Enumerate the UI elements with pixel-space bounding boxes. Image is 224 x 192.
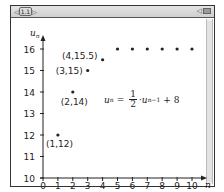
x-tick-label: 3 (85, 181, 91, 191)
x-tick-label: 7 (144, 181, 150, 191)
x-tick-label: 5 (115, 181, 121, 191)
x-tick-label: 2 (70, 181, 76, 191)
point-label: (3,15) (56, 66, 83, 76)
y-tick-label: 16 (24, 45, 36, 55)
data-point (71, 90, 74, 93)
data-point (101, 58, 104, 61)
y-axis-arrow-icon (41, 35, 46, 41)
y-tick-label: 13 (24, 109, 35, 119)
x-tick-label: 6 (130, 181, 136, 191)
x-axis-label: n (205, 180, 211, 190)
point-label: (4,15.5) (62, 51, 98, 61)
data-point (161, 47, 164, 50)
formula-lhs-sub: n (110, 96, 114, 103)
formula-equals: = (117, 95, 125, 105)
x-tick-label: 8 (159, 181, 165, 191)
data-point (176, 47, 179, 50)
data-point (190, 47, 193, 50)
y-tick-label: 15 (24, 66, 35, 76)
data-point (56, 133, 59, 136)
y-tick-label: 14 (24, 88, 36, 98)
x-tick-label: 0 (40, 181, 46, 191)
x-tick-label: 1 (55, 181, 61, 191)
data-point (146, 47, 149, 50)
formula-constant: + 8 (163, 95, 179, 105)
axes: 10111213141516012345678910unn (24, 28, 211, 191)
fraction-denominator: 2 (130, 100, 136, 109)
x-tick-label: 4 (100, 181, 106, 191)
data-point (86, 69, 89, 72)
formula-fraction: 1 2 (129, 90, 137, 109)
y-tick-label: 10 (24, 174, 36, 184)
data-point (116, 47, 119, 50)
y-tick-label: 11 (24, 152, 35, 162)
x-tick-label: 9 (174, 181, 180, 191)
sequence-formula: un = 1 2 · un−1 + 8 (104, 90, 179, 109)
x-tick-label: 10 (186, 181, 198, 191)
y-axis-label: un (30, 28, 40, 39)
data-point (131, 47, 134, 50)
point-label: (2,14) (61, 97, 88, 107)
y-tick-label: 12 (24, 131, 35, 141)
formula-rhs-sub: n−1 (148, 96, 161, 103)
point-label: (1,12) (46, 139, 73, 149)
